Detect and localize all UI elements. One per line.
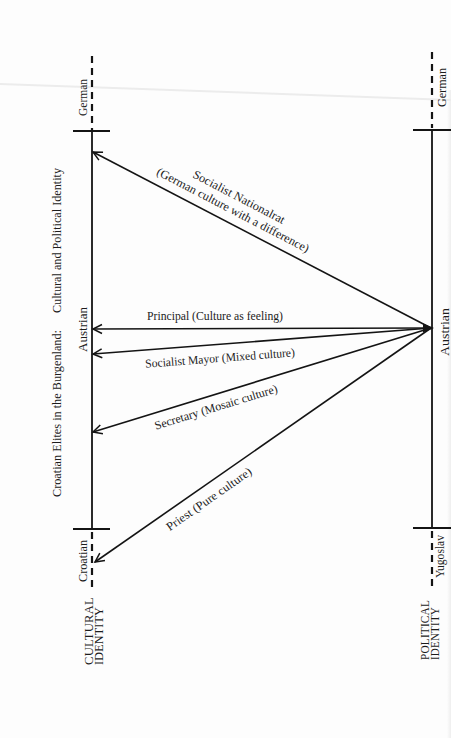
arrow-secretary	[93, 328, 431, 432]
political-identity-axis: German Austrian Yugoslav POLITICAL IDENT…	[413, 52, 451, 660]
cultural-middle-label: Austrian	[76, 307, 90, 352]
cultural-bottom-label: Croatian	[76, 540, 90, 582]
cultural-identity-axis: German Austrian Croatian CULTURAL IDENTI…	[73, 56, 110, 665]
arrow-principal	[93, 328, 431, 329]
identity-diagram: Croatian Elites in the Burgenland: Cultu…	[0, 0, 451, 738]
nationalrat-note-label: (German culture with a difference)	[154, 165, 311, 256]
priest-label: Priest (Pure culture)	[164, 464, 255, 533]
title-part-2: Cultural and Political Identity	[49, 168, 64, 313]
arrow-labels: Socialist Nationalrat (German culture wi…	[145, 165, 312, 534]
political-top-label: German	[435, 68, 449, 107]
cultural-top-label: German	[76, 79, 90, 116]
title-part-1: Croatian Elites in the Burgenland:	[49, 330, 64, 497]
political-middle-label: Austrian	[438, 308, 451, 356]
political-bottom-label: Yugoslav	[433, 535, 447, 578]
cultural-axis-title-line2: IDENTITY	[92, 607, 106, 665]
diagram-title: Croatian Elites in the Burgenland: Cultu…	[49, 168, 64, 497]
principal-label: Principal (Culture as feeling)	[147, 309, 283, 323]
arrow-socialist-nationalrat	[93, 152, 431, 328]
political-axis-title-line2: IDENTITY	[428, 607, 442, 660]
scan-artifact-line	[0, 84, 451, 100]
diagram-page: Croatian Elites in the Burgenland: Cultu…	[0, 0, 451, 738]
